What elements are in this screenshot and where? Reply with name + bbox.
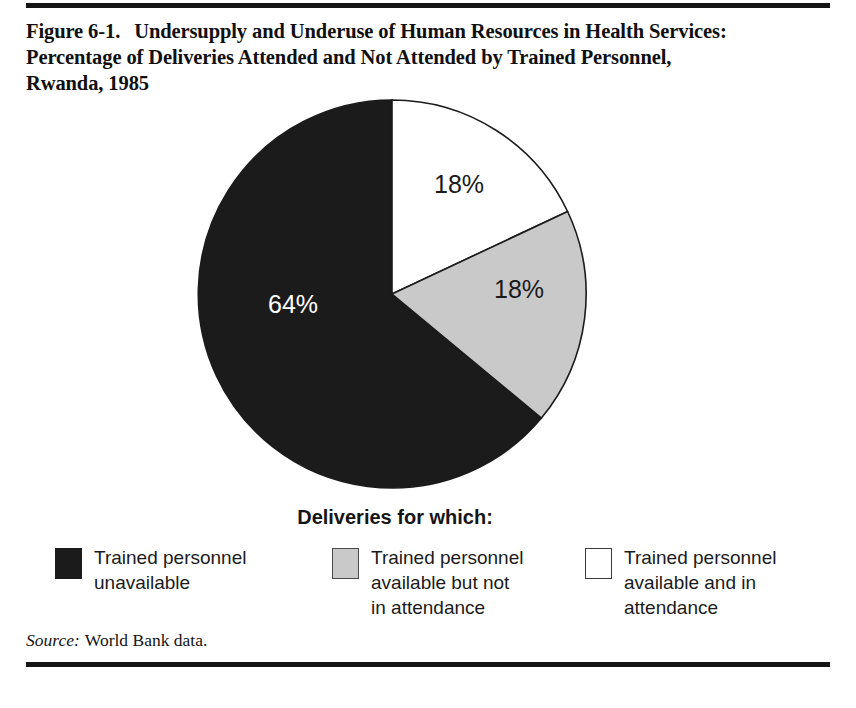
figure-title-line-1: Figure 6-1.Undersupply and Underuse of H… xyxy=(26,18,826,44)
figure-title-text-1: Undersupply and Underuse of Human Resour… xyxy=(134,20,726,42)
top-rule-divider xyxy=(26,3,830,8)
legend-item-available-but-not-in-attendance: Trained personnel available but not in a… xyxy=(332,545,523,620)
bottom-rule-divider xyxy=(26,662,830,667)
legend-item-label: Trained personnel available and in atten… xyxy=(624,545,776,620)
legend-heading: Deliveries for which: xyxy=(0,506,790,529)
figure-title-line-2: Percentage of Deliveries Attended and No… xyxy=(26,44,826,70)
legend-item-label: Trained personnel available but not in a… xyxy=(371,545,523,620)
legend-item-available-and-in-attendance: Trained personnel available and in atten… xyxy=(585,545,776,620)
black-square-swatch-icon xyxy=(55,548,82,579)
legend-item-unavailable: Trained personnel unavailable xyxy=(55,545,246,595)
figure-title-line-3: Rwanda, 1985 xyxy=(26,70,826,96)
pie-label-available-but-not-in-attendance: 18% xyxy=(494,275,544,304)
figure-number-label: Figure 6-1. xyxy=(26,20,120,42)
source-label: Source: xyxy=(26,630,80,650)
figure-container: Figure 6-1.Undersupply and Underuse of H… xyxy=(0,0,856,708)
figure-title: Figure 6-1.Undersupply and Underuse of H… xyxy=(26,18,826,96)
legend-item-label: Trained personnel unavailable xyxy=(94,545,246,595)
gray-square-swatch-icon xyxy=(332,548,359,579)
source-value: World Bank data. xyxy=(85,630,208,650)
pie-label-unavailable: 64% xyxy=(268,290,318,319)
white-square-swatch-icon xyxy=(585,548,612,579)
pie-label-available-and-in-attendance: 18% xyxy=(434,170,484,199)
source-note: Source:World Bank data. xyxy=(26,630,207,651)
